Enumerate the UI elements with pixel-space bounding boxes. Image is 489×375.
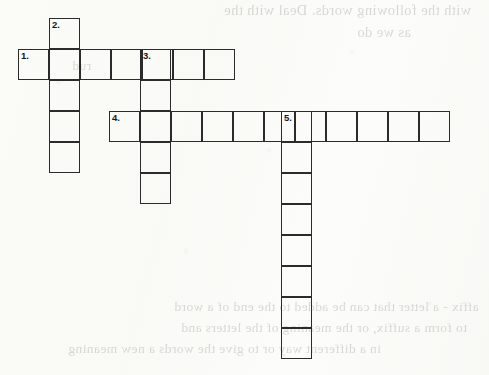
crossword-cell[interactable] — [140, 173, 171, 204]
crossword-cell[interactable] — [388, 111, 419, 142]
crossword-clue-number: 1. — [21, 50, 29, 61]
crossword-cell[interactable] — [49, 49, 80, 80]
crossword-cell[interactable] — [49, 80, 80, 111]
crossword-cell-numbered[interactable]: 3. — [140, 49, 171, 80]
crossword-cell[interactable] — [171, 111, 202, 142]
crossword-cell[interactable] — [281, 235, 312, 266]
crossword-cell[interactable] — [140, 111, 171, 142]
crossword-cell[interactable] — [80, 49, 111, 80]
crossword-grid: 1.2.3.4.5. — [0, 0, 489, 375]
crossword-clue-number: 3. — [143, 50, 151, 61]
crossword-cell[interactable] — [357, 111, 388, 142]
crossword-cell[interactable] — [281, 204, 312, 235]
crossword-cell-numbered[interactable]: 5. — [281, 111, 312, 142]
crossword-cell[interactable] — [281, 297, 312, 328]
crossword-cell[interactable] — [233, 111, 264, 142]
crossword-cell[interactable] — [49, 142, 80, 173]
crossword-clue-number: 5. — [284, 112, 292, 123]
crossword-cell[interactable] — [419, 111, 450, 142]
crossword-cell[interactable] — [281, 173, 312, 204]
crossword-cell[interactable] — [281, 142, 312, 173]
crossword-cell[interactable] — [281, 328, 312, 359]
crossword-cell-numbered[interactable]: 4. — [109, 111, 140, 142]
crossword-clue-number: 4. — [112, 112, 120, 123]
crossword-cell[interactable] — [204, 49, 235, 80]
crossword-cell[interactable] — [111, 49, 142, 80]
crossword-cell[interactable] — [326, 111, 357, 142]
crossword-cell-numbered[interactable]: 1. — [18, 49, 49, 80]
crossword-cell[interactable] — [281, 266, 312, 297]
crossword-cell[interactable] — [140, 142, 171, 173]
crossword-cell[interactable] — [140, 80, 171, 111]
crossword-cell-numbered[interactable]: 2. — [49, 18, 80, 49]
crossword-cell[interactable] — [49, 111, 80, 142]
crossword-clue-number: 2. — [52, 19, 60, 30]
crossword-cell[interactable] — [173, 49, 204, 80]
crossword-cell[interactable] — [202, 111, 233, 142]
